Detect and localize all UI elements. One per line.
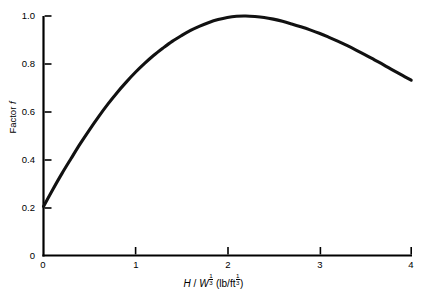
y-tick-label-0.4: 0.4	[8, 154, 35, 165]
y-tick-label-0.2: 0.2	[8, 202, 35, 213]
chart-figure: 1.0 0.8 0.6 0.4 0.2 0 0 1 2 3 4 Factor f…	[0, 0, 427, 298]
x-axis-title-denominator: W	[199, 278, 208, 289]
y-axis-title-prefix: Factor	[7, 104, 18, 134]
x-tick-label-1: 1	[126, 259, 146, 270]
x-axis-title-units-open: (lb/ft	[213, 278, 235, 289]
x-tick-label-2: 2	[218, 259, 238, 270]
y-axis-title-symbol: f	[7, 101, 18, 104]
x-axis-title-slash: /	[191, 278, 199, 289]
plot-area	[0, 0, 427, 298]
y-tick-label-0.8: 0.8	[8, 58, 35, 69]
x-tick-label-0: 0	[33, 259, 53, 270]
x-tick-label-4: 4	[401, 259, 421, 270]
y-tick-label-0: 0	[8, 250, 35, 261]
y-axis-title: Factor f	[7, 90, 18, 146]
x-axis-title: H / W13 (lb/ft13)	[0, 273, 427, 289]
y-axis-ticks	[45, 16, 52, 208]
x-tick-label-3: 3	[310, 259, 330, 270]
data-curve-factor-f	[44, 16, 412, 206]
y-tick-label-1.0: 1.0	[8, 10, 35, 21]
x-axis-title-numerator: H	[184, 278, 191, 289]
x-axis-ticks	[136, 247, 412, 254]
axis-lines	[42, 16, 412, 257]
x-axis-title-units-close: )	[240, 278, 243, 289]
